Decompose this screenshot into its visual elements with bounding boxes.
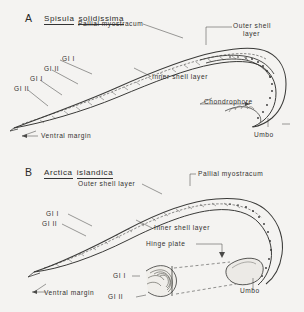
chondrophore-ridges: [229, 106, 254, 112]
panel-a-spisula-solidissima: A Spisulasolidissima: [0, 0, 304, 156]
leader-lines: [32, 174, 253, 297]
panel-b-label-pallial-myostracum: Pallial myostracum: [198, 170, 263, 178]
panel-b-label-ventral-margin: Ventral margin: [44, 289, 94, 297]
hinge-plate-structure: [226, 258, 263, 285]
chondrophore-structure: [225, 107, 261, 123]
panel-a-label-inner-shell-layer: Inner shell layer: [152, 73, 208, 81]
panel-a-label-gi-3: GI I: [30, 75, 43, 83]
leader-lines: [22, 24, 290, 138]
ventral-margin-tip: [10, 128, 18, 131]
panel-a-label-gi-2: GI II: [44, 65, 59, 73]
panel-a-label-outer-shell-layer: Outer shell layer: [233, 22, 289, 38]
panel-b-label-inner-shell-layer: Inner shell layer: [154, 224, 210, 232]
panel-a-label-gi-4: GI II: [14, 85, 29, 93]
panel-b-label-inset-gi-1: GI I: [113, 272, 126, 280]
panel-b-label-inset-gi-2: GI II: [108, 293, 123, 301]
panel-a-label-gi-1: GI I: [62, 55, 75, 63]
inner-shell-layer-hatching: [40, 56, 248, 123]
panel-b-label-gi-1: GI I: [46, 210, 59, 218]
outer-shell-layer-line2: layer: [243, 30, 260, 37]
ventral-margin-tip: [28, 272, 40, 277]
inset-growth-increment-detail: [146, 266, 177, 297]
inset-connector-lines: [174, 262, 236, 294]
panel-b-label-umbo: Umbo: [240, 287, 260, 295]
panel-a-label-ventral-margin: Ventral margin: [41, 132, 91, 140]
outer-shell-layer-line1: Outer shell: [233, 22, 271, 29]
panel-a-label-pallial-myostracum: Pallial myostracum: [78, 20, 143, 28]
panel-a-label-chondrophore: Chondrophore: [204, 98, 253, 106]
bivalve-shell-cross-section-figure: A Spisulasolidissima: [0, 0, 304, 312]
panel-a-label-umbo: Umbo: [254, 131, 274, 139]
panel-b-arctica-islandica: B Arcticaislandica: [0, 156, 304, 312]
panel-b-label-hinge-plate: Hinge plate: [146, 240, 185, 248]
panel-b-label-gi-2: GI II: [42, 220, 57, 228]
panel-b-label-outer-shell-layer: Outer shell layer: [78, 180, 135, 188]
pallial-myostracum-band: [44, 204, 262, 268]
